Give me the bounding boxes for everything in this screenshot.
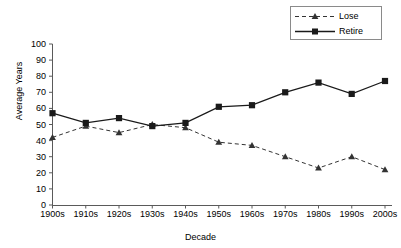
x-tick-label: 1900s [40, 210, 65, 219]
x-tick-label: 1950s [206, 210, 231, 219]
legend-entry-retire[interactable]: Retire [294, 24, 378, 39]
x-tick-label: 1960s [240, 210, 265, 219]
x-tick-label: 1930s [140, 210, 165, 219]
x-tick-label: 1920s [107, 210, 132, 219]
legend-swatch-retire [294, 25, 336, 38]
legend-entry-lose[interactable]: Lose [294, 9, 378, 24]
x-tick-label: 1970s [273, 210, 298, 219]
x-tick-label: 1990s [339, 210, 364, 219]
line-chart: 1009080706050403020100 1900s1910s1920s19… [0, 0, 401, 248]
x-tick-label: 2000s [373, 210, 398, 219]
legend: Lose Retire [290, 6, 382, 40]
x-tick-label: 1980s [306, 210, 331, 219]
x-tick-label: 1940s [173, 210, 198, 219]
legend-swatch-lose [294, 10, 336, 23]
y-axis-title: Average Years [14, 31, 24, 151]
x-tick-label: 1910s [73, 210, 98, 219]
legend-label-retire: Retire [336, 27, 363, 36]
legend-label-lose: Lose [336, 12, 359, 21]
x-axis-title: Decade [0, 232, 401, 242]
